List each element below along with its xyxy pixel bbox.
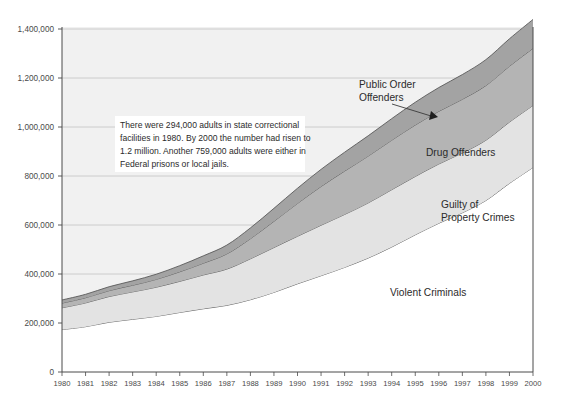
y-tick-label: 1,000,000 [18,123,55,132]
x-tick-label: 1991 [313,379,330,388]
drug-offenders-label: Drug Offenders [426,147,495,158]
y-tick-label: 400,000 [24,270,54,279]
property-crimes-label-line-1: Guilty of [441,199,479,210]
y-tick-label: 1,200,000 [18,74,55,83]
x-tick-label: 1998 [477,379,494,388]
x-tick-label: 1989 [265,379,282,388]
callout-line-4: Federal prisons or local jails. [120,159,229,169]
y-tick-label: 600,000 [24,221,54,230]
public-order-label-line-2: Offenders [359,92,404,103]
x-tick-label: 1981 [77,379,94,388]
x-tick-label: 1987 [218,379,235,388]
public-order-label-line-1: Public Order [359,79,416,90]
x-tick-label: 1988 [242,379,259,388]
property-crimes-label-line-2: Property Crimes [441,212,515,223]
y-tick-label: 1,400,000 [18,25,55,34]
callout-line-2: facilities in 1980. By 2000 the number h… [120,133,311,143]
callout-line-3: 1.2 million. Another 759,000 adults were… [120,146,306,156]
callout-box: There were 294,000 adults in state corre… [115,116,311,172]
callout-line-1: There were 294,000 adults in state corre… [120,120,299,130]
x-tick-label: 1996 [430,379,447,388]
x-tick-label: 2000 [525,379,542,388]
x-tick-label: 1984 [148,379,165,388]
x-tick-label: 1993 [360,379,377,388]
y-tick-label: 0 [49,368,54,377]
x-tick-label: 1992 [336,379,353,388]
y-axis-ticks: 0200,000400,000600,000800,0001,000,0001,… [18,25,62,377]
x-tick-label: 1994 [383,379,400,388]
violent-criminals-label: Violent Criminals [390,287,466,298]
x-tick-label: 1980 [54,379,71,388]
x-axis-ticks: 1980198119821983198419851986198719881989… [54,372,542,388]
x-tick-label: 1999 [501,379,518,388]
x-tick-label: 1982 [101,379,118,388]
x-tick-label: 1990 [289,379,306,388]
x-tick-label: 1995 [407,379,424,388]
chart-canvas: 0200,000400,000600,000800,0001,000,0001,… [0,0,561,413]
x-tick-label: 1997 [454,379,471,388]
y-tick-label: 200,000 [24,319,54,328]
x-tick-label: 1986 [195,379,212,388]
x-tick-label: 1983 [124,379,141,388]
x-tick-label: 1985 [171,379,188,388]
y-tick-label: 800,000 [24,172,54,181]
stacked-area-chart: 0200,000400,000600,000800,0001,000,0001,… [0,0,561,413]
